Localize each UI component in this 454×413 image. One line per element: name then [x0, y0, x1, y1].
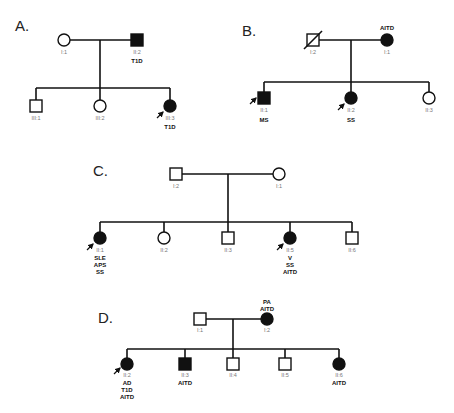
male-affected-symbol: [179, 358, 191, 370]
male-unaffected-symbol: [279, 358, 291, 370]
diagnosis-label: SS: [286, 262, 294, 268]
male-unaffected-symbol: [227, 358, 239, 370]
diagnosis-label: T1D: [131, 58, 143, 64]
diagnosis-label: T1D: [164, 124, 176, 130]
pedigree-panel-d: D. I:1 PA AITD I:2 II:2 AD T1D AITD II:3…: [98, 299, 347, 400]
female-unaffected-symbol: [423, 92, 435, 104]
panel-label-d: D.: [98, 309, 113, 326]
female-affected-symbol: [94, 232, 106, 244]
individual-id: II:5: [281, 372, 289, 378]
individual-id: I:1: [61, 49, 67, 55]
proband-arrow-icon: [157, 112, 163, 118]
individual-id: I:2: [310, 49, 316, 55]
individual-id: I:2: [264, 327, 270, 333]
panel-label-a: A.: [15, 17, 29, 34]
proband-arrow-icon: [277, 244, 283, 250]
individual-id: II:2: [123, 372, 131, 378]
individual-id: I:1: [276, 183, 282, 189]
diagnosis-label: SS: [96, 269, 104, 275]
diagnosis-label: AITD: [120, 394, 135, 400]
proband-arrow-icon: [338, 104, 344, 110]
female-unaffected-symbol: [58, 34, 70, 46]
diagnosis-label: T1D: [121, 387, 133, 393]
pedigree-panel-c: C. I:2 I:1 II:1 SLE APS SS II:2 II:3 II:…: [87, 162, 358, 275]
proband-arrow-icon: [250, 98, 256, 104]
male-unaffected-symbol: [30, 100, 42, 112]
diagnosis-label: AITD: [283, 269, 298, 275]
pedigree-panel-b: B. I:2 AITD I:1 II:1 MS II:2 SS II:3: [242, 22, 435, 123]
female-affected-symbol: [333, 358, 345, 370]
diagnosis-label: PA: [263, 299, 272, 305]
female-unaffected-symbol: [273, 168, 285, 180]
diagnosis-label: AITD: [260, 306, 275, 312]
male-unaffected-symbol: [194, 313, 206, 325]
female-affected-symbol: [164, 100, 176, 112]
individual-id: II:1: [260, 107, 268, 113]
pedigree-figure: A. I:1 II:2 T1D III:1 III:2 III:3 T1D B.…: [0, 0, 454, 413]
male-unaffected-symbol: [222, 232, 234, 244]
male-affected-symbol: [131, 34, 143, 46]
diagnosis-label: V: [288, 255, 292, 261]
diagnosis-label: APS: [94, 262, 106, 268]
diagnosis-label: AITD: [332, 380, 347, 386]
individual-id: II:3: [181, 372, 189, 378]
individual-id: II:3: [425, 107, 433, 113]
individual-id: I:1: [197, 327, 203, 333]
panel-label-b: B.: [242, 22, 256, 39]
female-affected-symbol: [345, 92, 357, 104]
individual-id: III:3: [165, 115, 174, 121]
individual-id: II:1: [96, 247, 104, 253]
individual-id: III:1: [31, 115, 40, 121]
individual-id: II:6: [348, 247, 356, 253]
individual-id: II:2: [160, 247, 168, 253]
male-affected-symbol: [258, 92, 270, 104]
individual-id: II:2: [133, 49, 141, 55]
proband-arrow-icon: [87, 244, 93, 250]
pedigree-panel-a: A. I:1 II:2 T1D III:1 III:2 III:3 T1D: [15, 17, 176, 130]
individual-id: I:1: [384, 49, 390, 55]
female-affected-symbol: [284, 232, 296, 244]
individual-id: III:2: [95, 115, 104, 121]
diagnosis-label: AD: [123, 380, 132, 386]
individual-id: II:3: [224, 247, 232, 253]
diagnosis-label: SLE: [94, 255, 106, 261]
diagnosis-label: AITD: [380, 25, 395, 31]
individual-id: II:5: [286, 247, 294, 253]
male-unaffected-symbol: [346, 232, 358, 244]
female-unaffected-symbol: [94, 100, 106, 112]
individual-id: II:2: [347, 107, 355, 113]
individual-id: I:2: [173, 183, 179, 189]
diagnosis-label: AITD: [178, 380, 193, 386]
female-affected-symbol: [381, 34, 393, 46]
female-unaffected-symbol: [158, 232, 170, 244]
individual-id: II:6: [335, 372, 343, 378]
panel-label-c: C.: [93, 162, 108, 179]
female-affected-symbol: [121, 358, 133, 370]
female-affected-symbol: [261, 313, 273, 325]
individual-id: II:4: [229, 372, 237, 378]
diagnosis-label: MS: [260, 117, 269, 123]
male-unaffected-symbol: [170, 168, 182, 180]
proband-arrow-icon: [114, 368, 120, 374]
diagnosis-label: SS: [347, 117, 355, 123]
